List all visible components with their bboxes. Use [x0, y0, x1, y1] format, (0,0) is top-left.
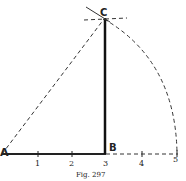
- hypotenuse-ac: [2, 19, 104, 154]
- figure-caption: Fig. 297: [76, 171, 105, 179]
- tick-label-2: 2: [69, 159, 74, 168]
- tick-label-5: 5: [173, 155, 178, 164]
- arc-c5: [104, 19, 177, 152]
- tick-label-4: 4: [139, 159, 144, 168]
- label-c: C: [100, 7, 107, 18]
- tick-label-3: 3: [103, 159, 108, 168]
- geometry-diagram: A B C 1 2 3 4 5 Fig. 297: [0, 0, 186, 181]
- tick-label-1: 1: [35, 159, 40, 168]
- label-a: A: [0, 146, 9, 159]
- label-b: B: [109, 142, 117, 153]
